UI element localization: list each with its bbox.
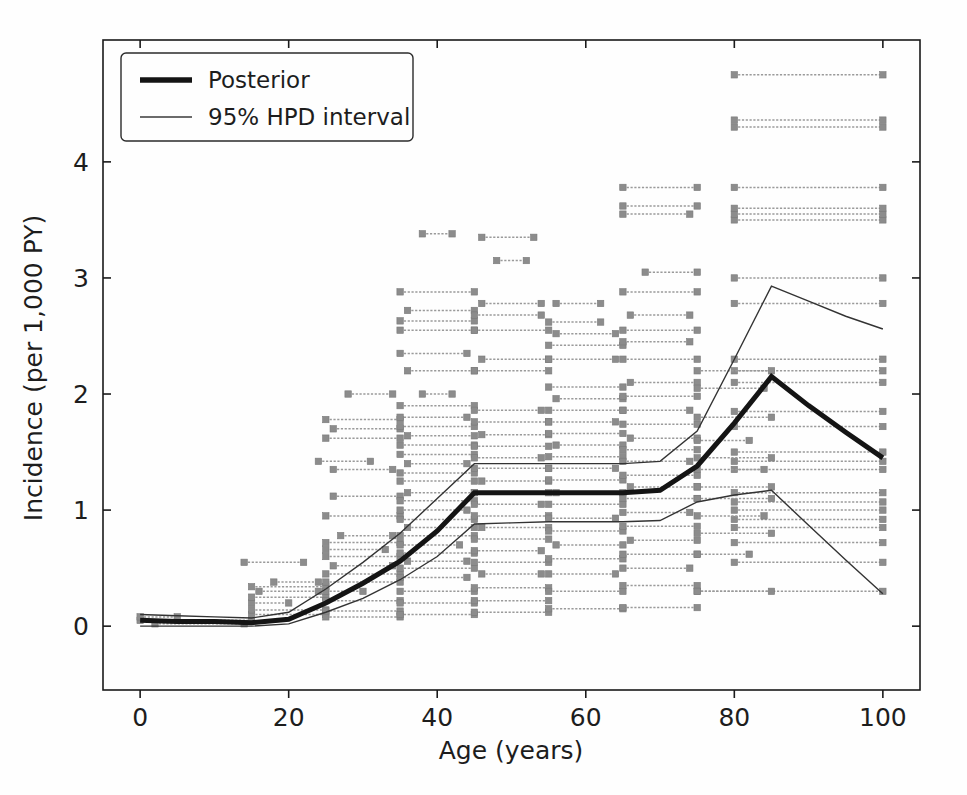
y-tick-label: 1 (73, 496, 89, 525)
observation-bar (323, 416, 404, 422)
observation-bar (545, 571, 618, 577)
observation-bar (397, 318, 478, 324)
observation-bar (620, 523, 701, 529)
observation-bar (553, 542, 626, 548)
observation-bar (731, 516, 886, 522)
observation-bars-layer (137, 72, 886, 627)
x-tick-label: 0 (132, 703, 148, 732)
observation-bar (731, 408, 886, 414)
observation-bar (545, 342, 626, 348)
x-tick-label: 100 (859, 703, 907, 732)
observation-bar (731, 449, 886, 455)
observation-bar (553, 395, 626, 401)
observation-bar (731, 458, 886, 464)
observation-bar (323, 571, 404, 577)
observation-bar (397, 414, 470, 420)
observation-bar (471, 597, 552, 603)
observation-bar (256, 588, 322, 594)
observation-bar (620, 582, 701, 588)
observation-bar (419, 391, 455, 397)
observation-bar (545, 465, 618, 471)
observation-bar (620, 447, 701, 453)
observation-bar (471, 513, 552, 519)
observation-bar (471, 609, 552, 615)
observation-bar (731, 275, 886, 281)
observation-bar (471, 327, 552, 333)
observation-bar (620, 211, 693, 217)
observation-bar (545, 606, 626, 612)
observation-bar (731, 184, 886, 190)
observation-bar (397, 350, 470, 356)
observation-bar (397, 451, 478, 457)
observation-bar (627, 537, 700, 543)
observation-bar (620, 356, 701, 362)
observation-bar (627, 312, 693, 318)
observation-bar (731, 423, 886, 429)
observation-bar (545, 319, 603, 325)
x-axis-label: Age (years) (439, 736, 584, 765)
incidence-by-age-chart: 02040608010001234 Age (years) Incidence … (0, 0, 967, 795)
observation-bar (731, 356, 886, 362)
observation-bar (471, 455, 544, 461)
observation-bar (545, 419, 618, 425)
observation-bar (337, 532, 395, 538)
observation-bar (397, 327, 478, 333)
observation-bar (404, 368, 477, 374)
observation-bar (315, 458, 373, 464)
observation-bar (479, 571, 545, 577)
observation-bar (694, 588, 775, 594)
observation-bar (330, 426, 403, 432)
axis-ticks-layer: 02040608010001234 (73, 40, 920, 732)
observation-bar (731, 211, 886, 217)
legend-label-hpd: 95% HPD interval (208, 104, 410, 130)
observation-bar (404, 558, 470, 564)
y-tick-label: 3 (73, 264, 89, 293)
observation-bar (471, 536, 552, 542)
figure-canvas: 02040608010001234 Age (years) Incidence … (0, 0, 967, 795)
observation-bar (620, 565, 693, 571)
observation-bar (620, 327, 701, 333)
observation-bar (553, 300, 604, 306)
observation-bar (694, 484, 775, 490)
observation-bar (731, 559, 886, 565)
observation-bar (397, 565, 478, 571)
observation-bar (397, 289, 478, 295)
observation-bar (323, 614, 404, 620)
observation-bar (330, 466, 396, 472)
observation-bar (731, 539, 886, 545)
observation-bar (323, 553, 404, 559)
observation-bar (545, 430, 626, 436)
observation-bar (731, 499, 886, 505)
observation-bar (545, 588, 626, 594)
observation-bar (479, 478, 552, 484)
observation-bar (620, 339, 693, 345)
observation-bar (545, 528, 626, 534)
observation-bar (323, 513, 404, 519)
observation-bar (620, 203, 701, 209)
observation-bar (397, 588, 478, 594)
observation-bar (397, 600, 478, 606)
observation-bar (620, 393, 701, 399)
observation-bar (620, 604, 701, 610)
observation-bar (620, 495, 701, 501)
observation-bar (731, 379, 886, 385)
observation-bar (620, 551, 701, 557)
observation-bar (471, 585, 552, 591)
observation-bar (731, 205, 886, 211)
observation-bar (694, 466, 767, 472)
observation-bar (397, 478, 478, 484)
observation-bar (330, 493, 403, 499)
observation-bar (545, 501, 626, 507)
observation-bar (479, 431, 552, 437)
observation-bar (404, 307, 477, 313)
observation-bar (471, 559, 552, 565)
observation-bar (471, 501, 544, 507)
observation-bar (620, 407, 693, 413)
observation-bar (345, 391, 396, 397)
observation-bar (323, 435, 404, 441)
observation-bar (471, 312, 544, 318)
observation-bar (620, 184, 701, 190)
y-tick-label: 0 (73, 612, 89, 641)
legend-label-posterior: Posterior (208, 67, 310, 93)
observation-bar (404, 433, 477, 439)
